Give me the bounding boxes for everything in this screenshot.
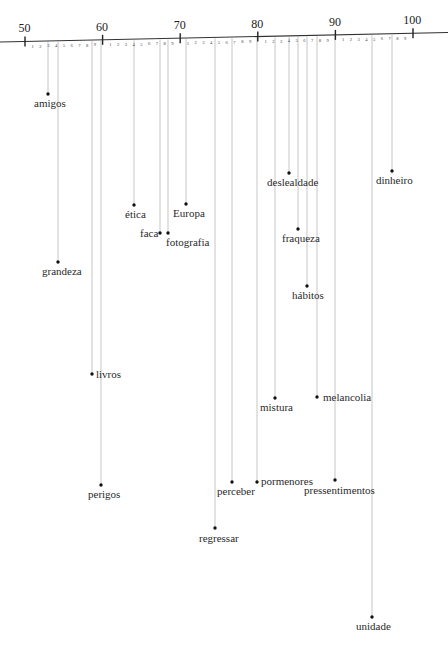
data-point-dot [305,284,308,287]
minor-tick-label: 6 [148,41,151,46]
minor-tick-label: 3 [358,37,361,42]
word-number-line-diagram: 1234567891234567891234567891234567891234… [0,0,448,652]
word-label-regressar: regressar [199,533,239,544]
minor-tick-label: 9 [171,41,174,46]
word-label-fotografia: fotografia [166,237,209,248]
word-label-perigos: perigos [88,489,120,500]
word-label-deslealdade: deslealdade [267,177,318,188]
minor-tick-label: 4 [210,40,213,45]
minor-tick-label: 7 [78,43,81,48]
major-tick-label: 90 [329,16,341,28]
minor-tick-label: 7 [389,36,392,41]
word-label-perceber: perceber [217,486,255,497]
data-point-dot [296,227,299,230]
word-label-fraqueza: fraqueza [282,233,320,244]
data-point-dot [99,483,102,486]
minor-tick-label: 5 [63,43,66,48]
word-label-europa: Europa [173,208,205,219]
word-label-faca: faca [140,228,158,239]
data-point-dot [390,169,393,172]
minor-tick-label: 5 [140,42,143,47]
minor-tick-label: 1 [32,44,35,49]
data-point-dot [184,202,187,205]
word-label-livros: livros [96,369,121,380]
minor-tick-label: 1 [187,41,190,46]
minor-tick-label: 1 [109,42,112,47]
word-label-unidade: unidade [356,621,391,632]
minor-tick-label: 6 [70,43,73,48]
data-point-dot [370,615,373,618]
minor-tick-label: 6 [226,40,229,45]
major-tick-label: 50 [19,22,31,34]
word-label-habitos: hábitos [292,290,324,301]
minor-tick-label: 6 [381,36,384,41]
data-point-dot [46,92,49,95]
major-tick-label: 70 [174,19,186,31]
data-point-dot [56,260,59,263]
minor-tick-label: 2 [350,37,353,42]
minor-tick-label: 2 [39,44,42,49]
minor-tick-label: 8 [396,36,399,41]
data-point-dot [255,480,258,483]
data-point-dot [132,203,135,206]
word-label-amigos: amigos [34,98,66,109]
word-label-etica: ética [125,209,146,220]
data-point-dot [213,526,216,529]
minor-tick-label: 6 [303,38,306,43]
word-label-mistura: mistura [260,402,293,413]
data-point-dot [273,396,276,399]
minor-tick-label: 8 [319,38,322,43]
data-point-dot [166,231,169,234]
data-point-dot [315,395,318,398]
data-point-dot [158,231,161,234]
data-point-dot [230,480,233,483]
word-label-grandeza: grandeza [42,266,82,277]
minor-tick-label: 5 [373,37,376,42]
minor-tick-label: 4 [288,38,291,43]
minor-tick-label: 7 [156,41,159,46]
data-point-dot [287,171,290,174]
minor-tick-label: 3 [125,42,128,47]
minor-tick-label: 7 [233,40,236,45]
minor-tick-label: 3 [202,40,205,45]
data-point-dot [90,372,93,375]
minor-tick-label: 8 [164,41,167,46]
minor-tick-label: 7 [311,38,314,43]
word-label-dinheiro: dinheiro [376,175,413,186]
minor-tick-label: 4 [365,37,368,42]
word-label-pressentimentos: pressentimentos [304,485,375,496]
minor-tick-label: 9 [94,42,97,47]
minor-tick-label: 3 [47,43,50,48]
data-point-dot [333,478,336,481]
major-tick-label: 60 [96,21,108,33]
minor-tick-label: 5 [218,40,221,45]
minor-tick-label: 2 [195,40,198,45]
minor-tick-label: 9 [249,39,252,44]
word-label-melancolia: melancolia [323,392,371,403]
minor-tick-label: 9 [404,36,407,41]
minor-tick-label: 3 [280,39,283,44]
major-tick-label: 80 [251,18,263,30]
minor-tick-label: 4 [55,43,58,48]
minor-tick-label: 8 [241,39,244,44]
minor-tick-label: 4 [132,42,135,47]
minor-tick-label: 8 [86,43,89,48]
major-tick-label: 100 [403,14,421,26]
minor-tick-label: 2 [117,42,120,47]
minor-tick-label: 9 [326,38,329,43]
minor-tick-label: 1 [342,37,345,42]
axis-and-leaders: 1234567891234567891234567891234567891234… [0,0,448,652]
minor-tick-label: 1 [264,39,267,44]
